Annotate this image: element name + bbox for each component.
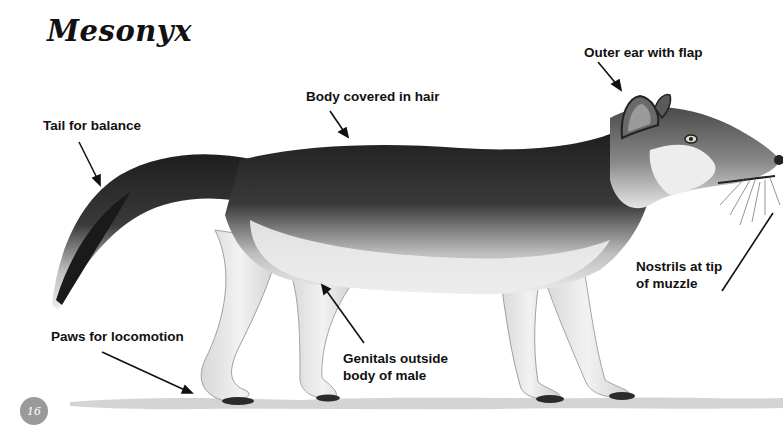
- ground-shadow: [70, 397, 783, 409]
- label-tail: Tail for balance: [43, 117, 141, 134]
- label-nostrils-line2: of muzzle: [636, 275, 722, 292]
- label-nostrils-line1: Nostrils at tip: [636, 258, 722, 275]
- page-number: 16: [27, 405, 41, 418]
- label-genitals: Genitals outside body of male: [343, 350, 448, 384]
- label-paws: Paws for locomotion: [51, 328, 184, 345]
- label-body-hair: Body covered in hair: [306, 88, 440, 105]
- front-leg-far: [545, 275, 630, 397]
- label-outer-ear: Outer ear with flap: [584, 44, 703, 61]
- page-title: Mesonyx: [47, 14, 192, 48]
- label-genitals-line1: Genitals outside: [343, 350, 448, 367]
- label-nostrils: Nostrils at tip of muzzle: [636, 258, 722, 292]
- whiskers: [720, 178, 780, 225]
- page-number-badge: 16: [20, 397, 48, 425]
- label-genitals-line2: body of male: [343, 367, 448, 384]
